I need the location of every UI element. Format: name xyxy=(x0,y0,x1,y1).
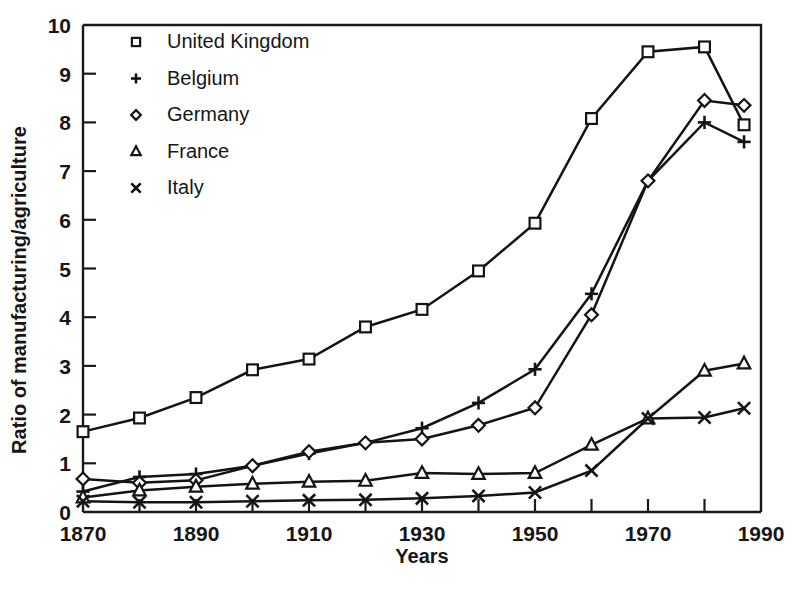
legend-label: France xyxy=(167,140,229,162)
y-tick-label: 5 xyxy=(59,258,71,281)
data-point-marker-square xyxy=(304,354,315,365)
data-point-marker-diamond xyxy=(246,459,259,472)
y-tick-label: 9 xyxy=(59,63,71,86)
data-point-marker-square xyxy=(417,304,428,315)
x-tick-label: 1870 xyxy=(60,522,107,545)
data-point-marker-diamond xyxy=(77,472,90,485)
markers-italy xyxy=(77,402,750,508)
y-axis-ticks xyxy=(83,74,96,464)
legend-item-united-kingdom[interactable]: United Kingdom xyxy=(132,30,309,52)
legend-marker xyxy=(131,146,141,155)
legend-label: Belgium xyxy=(167,67,239,89)
y-tick-label: 0 xyxy=(59,501,71,524)
data-point-marker-cross xyxy=(585,465,597,477)
y-tick-label: 3 xyxy=(59,355,71,378)
y-tick-label: 10 xyxy=(48,14,71,37)
y-tick-label: 4 xyxy=(59,306,71,329)
x-tick-label: 1970 xyxy=(625,522,672,545)
chart-figure: 012345678910 187018901910193019501970199… xyxy=(0,0,801,589)
data-point-marker-square xyxy=(247,364,258,375)
data-point-marker-square xyxy=(134,413,145,424)
data-point-marker-square xyxy=(739,119,750,130)
data-point-marker-square xyxy=(643,46,654,57)
data-point-marker-square xyxy=(473,266,484,277)
x-tick-label: 1910 xyxy=(286,522,333,545)
x-tick-label: 1930 xyxy=(399,522,446,545)
legend-item-germany[interactable]: Germany xyxy=(131,103,249,125)
data-point-marker-square xyxy=(530,218,541,229)
y-axis-title: Ratio of manufacturing/agriculture xyxy=(8,126,30,454)
legend-item-belgium[interactable]: Belgium xyxy=(131,67,239,89)
line-chart-canvas: 012345678910 187018901910193019501970199… xyxy=(0,0,801,589)
data-point-marker-diamond xyxy=(472,419,485,432)
data-point-marker-plus xyxy=(737,135,750,148)
data-point-marker-plus xyxy=(131,73,141,83)
legend-marker xyxy=(131,183,140,192)
data-point-marker-diamond xyxy=(303,445,316,458)
data-point-marker-diamond xyxy=(359,436,372,449)
data-point-marker-cross xyxy=(131,183,140,192)
markers-belgium xyxy=(76,116,750,498)
data-point-marker-diamond xyxy=(738,99,751,112)
legend-marker xyxy=(131,73,141,83)
legend-label: United Kingdom xyxy=(167,30,309,52)
data-point-marker-square xyxy=(586,113,597,124)
x-tick-label: 1890 xyxy=(173,522,220,545)
data-point-marker-square xyxy=(132,38,140,46)
chart-legend: United KingdomBelgiumGermanyFranceItaly xyxy=(131,30,309,198)
data-point-marker-diamond xyxy=(585,308,598,321)
legend-item-france[interactable]: France xyxy=(131,140,229,162)
legend-marker xyxy=(131,110,141,120)
data-point-marker-square xyxy=(191,392,202,403)
legend-item-italy[interactable]: Italy xyxy=(131,176,203,198)
y-tick-label: 7 xyxy=(59,160,71,183)
data-point-marker-diamond xyxy=(529,401,542,414)
y-tick-label: 1 xyxy=(59,452,71,475)
markers-united-kingdom xyxy=(78,42,750,438)
x-tick-label: 1950 xyxy=(512,522,559,545)
legend-label: Germany xyxy=(167,103,249,125)
y-tick-label: 8 xyxy=(59,111,71,134)
x-axis-tick-labels: 1870189019101930195019701990 xyxy=(60,522,785,545)
data-point-marker-plus xyxy=(472,396,485,409)
y-tick-label: 6 xyxy=(59,209,71,232)
x-tick-label: 1990 xyxy=(738,522,785,545)
legend-label: Italy xyxy=(167,176,204,198)
data-point-marker-square xyxy=(360,322,371,333)
legend-marker xyxy=(132,38,140,46)
y-tick-label: 2 xyxy=(59,404,71,427)
data-point-marker-square xyxy=(78,426,89,437)
data-point-marker-triangle xyxy=(738,357,751,369)
y-axis-tick-labels: 012345678910 xyxy=(48,14,72,524)
x-axis-title: Years xyxy=(395,545,448,567)
data-point-marker-diamond xyxy=(131,110,141,120)
data-point-marker-square xyxy=(699,42,710,53)
data-point-marker-triangle xyxy=(131,146,141,155)
data-point-marker-diamond xyxy=(416,433,429,446)
